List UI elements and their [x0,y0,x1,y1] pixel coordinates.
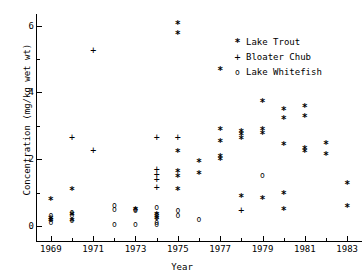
x-tick-major [220,236,221,241]
circle-marker: o [173,211,182,220]
x-tick-label: 1977 [200,245,240,254]
circle-marker: o [67,216,76,225]
y-tick-major [37,159,42,160]
asterisk-marker: * [258,130,267,139]
asterisk-marker: * [195,170,204,179]
asterisk-marker: * [237,193,246,202]
x-tick-minor [199,238,200,241]
plus-marker: + [173,133,182,142]
plus-marker: + [67,133,76,142]
circle-marker: o [131,220,140,229]
x-tick-major [135,236,136,241]
asterisk-marker: * [46,196,55,205]
x-axis-line [36,241,362,242]
x-tick-major [347,236,348,241]
plus-marker: + [152,133,161,142]
y-tick-minor [37,193,40,194]
legend-symbol-lake-whitefish: o [232,65,243,80]
legend-label-bloater-chub: Bloater Chub [246,50,311,65]
x-tick-label: 1969 [31,245,71,254]
asterisk-marker: * [216,66,225,75]
asterisk-marker: * [279,190,288,199]
x-tick-label: 1979 [243,245,283,254]
plus-marker: + [237,206,246,215]
x-tick-minor [241,238,242,241]
x-tick-label: 1981 [285,245,325,254]
asterisk-marker: * [279,141,288,150]
asterisk-marker: * [173,20,182,29]
y-tick-label: 0 [20,222,34,231]
asterisk-marker: * [279,206,288,215]
asterisk-marker: * [322,140,331,149]
asterisk-marker: * [173,30,182,39]
x-tick-minor [284,238,285,241]
asterisk-marker: * [279,115,288,124]
plus-marker: + [89,46,98,55]
asterisk-marker: * [343,203,352,212]
y-tick-label: 6 [20,22,34,31]
asterisk-marker: * [67,186,76,195]
x-tick-major [263,236,264,241]
y-tick-major [37,92,42,93]
y-axis-title: Concentration (mg/kg wet wt) [23,46,32,196]
chart-legend: *Lake Trout+Bloater ChuboLake Whitefish [232,35,322,80]
asterisk-marker: * [173,173,182,182]
asterisk-marker: * [343,180,352,189]
asterisk-marker: * [216,156,225,165]
x-tick-minor [326,238,327,241]
asterisk-marker: * [258,195,267,204]
asterisk-marker: * [300,148,309,157]
asterisk-marker: * [322,151,331,160]
circle-marker: o [152,220,161,229]
asterisk-marker: * [173,148,182,157]
x-tick-label: 1983 [327,245,364,254]
circle-marker: o [46,218,55,227]
y-axis-line [36,14,37,242]
circle-marker: o [110,220,119,229]
circle-marker: o [110,205,119,214]
x-tick-label: 1973 [115,245,155,254]
x-tick-major [305,236,306,241]
x-tick-major [178,236,179,241]
legend-item-lake-trout: *Lake Trout [232,35,322,50]
circle-marker: o [195,215,204,224]
asterisk-marker: * [300,103,309,112]
legend-item-lake-whitefish: oLake Whitefish [232,65,322,80]
x-tick-minor [72,238,73,241]
x-axis-title: Year [0,263,364,272]
x-tick-major [51,236,52,241]
y-tick-minor [37,59,40,60]
y-tick-minor [37,126,40,127]
legend-label-lake-whitefish: Lake Whitefish [246,65,322,80]
x-tick-major [93,236,94,241]
asterisk-marker: * [300,113,309,122]
legend-item-bloater-chub: +Bloater Chub [232,50,322,65]
circle-marker: o [258,171,267,180]
x-tick-label: 1975 [158,245,198,254]
asterisk-marker: * [195,158,204,167]
plus-marker: + [152,183,161,192]
plus-marker: + [89,146,98,155]
asterisk-marker: * [237,135,246,144]
y-tick-major [37,26,42,27]
legend-symbol-bloater-chub: + [232,50,243,65]
asterisk-marker: * [216,126,225,135]
asterisk-marker: * [216,138,225,147]
legend-symbol-lake-trout: * [232,35,243,50]
circle-marker: o [131,206,140,215]
legend-label-lake-trout: Lake Trout [246,35,300,50]
asterisk-marker: * [258,98,267,107]
scatter-plot-figure: 0246 19691971197319751977197919811983 Co… [0,0,364,279]
x-tick-minor [114,238,115,241]
y-tick-major [37,226,42,227]
x-tick-label: 1971 [73,245,113,254]
asterisk-marker: * [173,186,182,195]
x-tick-minor [157,238,158,241]
